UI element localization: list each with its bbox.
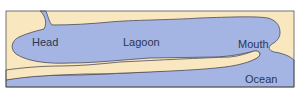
head-label: Head — [32, 36, 58, 48]
lagoon-diagram: Head Lagoon Mouth Ocean — [0, 0, 300, 95]
ocean-label: Ocean — [245, 73, 277, 85]
mouth-label: Mouth — [238, 38, 269, 50]
lagoon-label: Lagoon — [123, 36, 160, 48]
